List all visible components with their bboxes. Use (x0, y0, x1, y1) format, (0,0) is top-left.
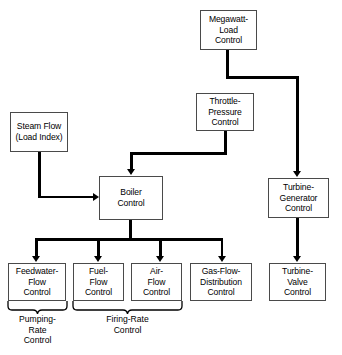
connector-bus-drop-air (159, 238, 162, 257)
control-hierarchy-diagram: Megawatt- Load Control Steam Flow (Load … (0, 0, 342, 355)
node-boiler-control[interactable]: Boiler Control (99, 176, 163, 220)
node-fuel-flow-control[interactable]: Fuel- Flow Control (73, 263, 124, 301)
connector-bus-drop-feedwater (35, 238, 38, 257)
node-gas-flow-distribution-control[interactable]: Gas-Flow- Distribution Control (190, 263, 252, 301)
connector-throttle-to-boiler-horizontal (130, 152, 227, 155)
connector-steamflow-to-boiler-vertical (38, 152, 41, 198)
brace-pumping-rate-group (7, 301, 68, 315)
arrow-into-fuel-flow-control (94, 256, 102, 262)
node-throttle-pressure-control[interactable]: Throttle- Pressure Control (196, 93, 254, 131)
arrow-into-air-flow-control (156, 256, 164, 262)
node-feedwater-flow-control[interactable]: Feedwater- Flow Control (8, 263, 66, 301)
node-turbine-valve-control[interactable]: Turbine- Valve Control (269, 263, 326, 301)
node-megawatt-load-control[interactable]: Megawatt- Load Control (200, 10, 257, 50)
arrow-into-feedwater-flow-control (32, 256, 40, 262)
connector-steamflow-to-boiler-horizontal (38, 196, 96, 199)
arrow-into-turbine-valve-control (293, 256, 301, 262)
connector-megawatt-to-turbine-horizontal (226, 76, 298, 79)
arrow-into-turbine-generator-control (293, 171, 301, 177)
brace-firing-rate-group (72, 301, 183, 315)
label-pumping-rate-control: Pumping- Rate Control (7, 314, 68, 346)
connector-bus-drop-gasflow (221, 238, 224, 257)
connector-megawatt-to-turbine-vertical-2 (296, 76, 299, 172)
connector-throttle-to-boiler-vertical-1 (224, 131, 227, 154)
node-turbine-generator-control[interactable]: Turbine- Generator Control (268, 178, 329, 218)
arrow-into-boiler-control-top (127, 169, 135, 175)
label-firing-rate-control: Firing-Rate Control (72, 314, 183, 335)
connector-throttle-to-boiler-vertical-2 (130, 152, 133, 170)
connector-megawatt-to-turbine-vertical-1 (226, 50, 229, 78)
node-steam-flow-load-index[interactable]: Steam Flow (Load Index) (10, 112, 68, 152)
connector-bus-drop-fuel (97, 238, 100, 257)
connector-boiler-distribution-bus (35, 238, 223, 241)
connector-boiler-to-bus-vertical (129, 220, 132, 240)
arrow-into-gas-flow-distribution-control (218, 256, 226, 262)
connector-turbinegen-to-turbinevalve (296, 218, 299, 257)
node-air-flow-control[interactable]: Air- Flow Control (131, 263, 182, 301)
